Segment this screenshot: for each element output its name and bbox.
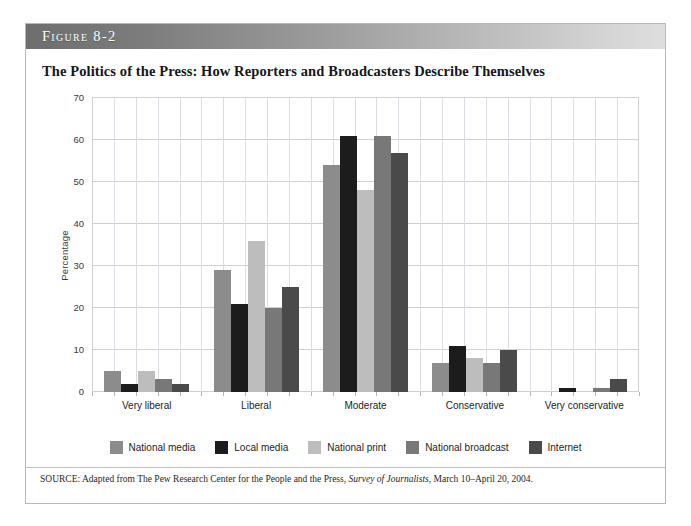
x-axis-category-label: Liberal: [201, 400, 310, 411]
x-axis-tick: [530, 392, 531, 396]
x-axis-tick: [223, 392, 224, 396]
x-axis-tick: [376, 392, 377, 396]
source-prefix: SOURCE:: [40, 474, 80, 484]
bar: [155, 379, 172, 392]
bar: [138, 371, 155, 392]
legend-item[interactable]: Internet: [529, 441, 582, 454]
x-axis-tick: [486, 392, 487, 396]
x-axis-category-label: Conservative: [420, 400, 529, 411]
bar-group: [420, 98, 529, 392]
chart-area: Percentage 010203040506070 Very liberalL…: [26, 90, 665, 420]
bar: [214, 270, 231, 392]
bar: [357, 190, 374, 392]
bar: [466, 358, 483, 392]
x-axis-tick: [551, 392, 552, 396]
legend-label: National broadcast: [425, 442, 508, 453]
source-note: SOURCE: Adapted from The Pew Research Ce…: [40, 474, 651, 484]
bar: [500, 350, 517, 392]
figure-header-bar: Figure 8-2: [26, 24, 665, 49]
x-axis-tick: [639, 392, 640, 396]
legend-item[interactable]: National print: [308, 441, 386, 454]
x-axis-tick: [508, 392, 509, 396]
legend-swatch: [529, 441, 542, 454]
x-axis-tick: [464, 392, 465, 396]
bar: [172, 384, 189, 392]
bar: [432, 363, 449, 392]
legend-swatch: [110, 441, 123, 454]
x-axis-tick: [442, 392, 443, 396]
legend-label: National media: [129, 442, 196, 453]
y-axis-tick-label: 60: [73, 134, 84, 145]
x-axis-tick: [158, 392, 159, 396]
bar: [340, 136, 357, 392]
bar: [121, 384, 138, 392]
legend-item[interactable]: National broadcast: [406, 441, 508, 454]
figure-title: The Politics of the Press: How Reporters…: [26, 49, 665, 80]
x-axis-tick: [201, 392, 202, 396]
legend-swatch: [308, 441, 321, 454]
x-axis-tick: [355, 392, 356, 396]
x-axis-tick: [398, 392, 399, 396]
page-root: Figure 8-2 The Politics of the Press: Ho…: [0, 0, 691, 526]
y-axis-tick-label: 70: [73, 92, 84, 103]
x-axis-category-label: Moderate: [311, 400, 420, 411]
source-divider: [26, 467, 665, 468]
bar: [483, 363, 500, 392]
legend-item[interactable]: Local media: [215, 441, 288, 454]
x-axis-tick: [245, 392, 246, 396]
legend-item[interactable]: National media: [110, 441, 196, 454]
y-axis-tick-label: 10: [73, 344, 84, 355]
plot-area: 010203040506070: [92, 98, 639, 392]
x-axis-tick: [311, 392, 312, 396]
bar: [374, 136, 391, 392]
x-axis-tick: [180, 392, 181, 396]
legend-label: National print: [327, 442, 386, 453]
bar: [231, 304, 248, 392]
bar: [391, 153, 408, 392]
bar: [248, 241, 265, 392]
figure-box: Figure 8-2 The Politics of the Press: Ho…: [25, 23, 666, 504]
bar-groups: [92, 98, 639, 392]
bar: [323, 165, 340, 392]
bar: [610, 379, 627, 392]
figure-number-label: Figure 8-2: [26, 28, 117, 45]
x-axis-tick: [420, 392, 421, 396]
source-body-2: , March 10–April 20, 2004.: [429, 474, 533, 484]
bar: [449, 346, 466, 392]
x-axis-tick: [573, 392, 574, 396]
bar-group: [530, 98, 639, 392]
bar-group: [311, 98, 420, 392]
bar-group: [92, 98, 201, 392]
source-body-1: Adapted from The Pew Research Center for…: [80, 474, 348, 484]
legend-swatch: [215, 441, 228, 454]
legend-label: Local media: [234, 442, 288, 453]
y-axis-tick-label: 50: [73, 176, 84, 187]
legend-swatch: [406, 441, 419, 454]
x-axis-tick: [595, 392, 596, 396]
y-axis-tick-label: 20: [73, 302, 84, 313]
y-axis-tick-label: 0: [79, 386, 84, 397]
x-axis-tick: [136, 392, 137, 396]
y-axis-tick-label: 40: [73, 218, 84, 229]
bar-group: [201, 98, 310, 392]
x-axis-tick: [289, 392, 290, 396]
x-axis-labels: Very liberalLiberalModerateConservativeV…: [92, 400, 639, 411]
source-title-italic: Survey of Journalists: [349, 474, 429, 484]
x-axis-tick: [333, 392, 334, 396]
y-axis-title: Percentage: [59, 196, 70, 316]
y-axis-tick-label: 30: [73, 260, 84, 271]
x-axis-category-label: Very conservative: [530, 400, 639, 411]
x-axis-tick: [617, 392, 618, 396]
x-axis-tick: [267, 392, 268, 396]
x-axis-tick: [114, 392, 115, 396]
bar: [104, 371, 121, 392]
x-axis-category-label: Very liberal: [92, 400, 201, 411]
chart-legend: National mediaLocal mediaNational printN…: [26, 441, 665, 454]
legend-label: Internet: [548, 442, 582, 453]
bar: [265, 308, 282, 392]
x-axis-tick: [92, 392, 93, 396]
bar: [282, 287, 299, 392]
